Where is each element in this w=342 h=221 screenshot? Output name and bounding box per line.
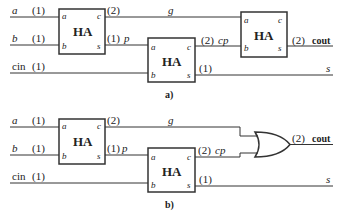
delay-b: (1): [32, 142, 45, 155]
label-cout: cout: [312, 133, 331, 144]
ha2-port-b: b: [151, 180, 156, 190]
ha1-label: HA: [73, 24, 93, 39]
delay-cout: (2): [292, 132, 305, 145]
ha3-port-a: a: [244, 15, 249, 25]
label-p: p: [121, 142, 128, 154]
delay-g: (2): [107, 4, 120, 17]
ha1-port-s: s: [97, 41, 101, 51]
delay-cp: (2): [201, 34, 214, 47]
ha3-port-s: s: [278, 43, 282, 53]
ha2-label: HA: [162, 164, 182, 179]
label-b: b: [12, 142, 18, 154]
label-a: a: [12, 4, 18, 16]
delay-g: (2): [107, 114, 120, 127]
ha2-port-s: s: [187, 180, 191, 190]
label-cp: cp: [218, 34, 229, 46]
ha3-label: HA: [254, 28, 274, 43]
delay-a: (1): [32, 4, 45, 17]
delay-a: (1): [32, 114, 45, 127]
delay-cout: (2): [292, 34, 305, 47]
delay-cin: (1): [32, 170, 45, 183]
ha1-port-a: a: [62, 11, 67, 21]
ha2-label: HA: [162, 54, 182, 69]
diagram-b-labels: a (1) b (1) cin (1) HA a b c s (2) g (1)…: [12, 114, 331, 211]
full-adder-diagrams: a (1) b (1) cin (1) HA a b c s (2) g (1)…: [0, 0, 342, 221]
diagram-b: [10, 119, 333, 192]
ha1-label: HA: [73, 134, 93, 149]
caption-a: a): [165, 89, 173, 101]
ha2-port-a: a: [151, 152, 156, 162]
diagram-a-labels: a (1) b (1) cin (1) HA a b c s (2) g (1)…: [12, 4, 331, 101]
label-g: g: [168, 114, 174, 126]
label-a: a: [12, 114, 18, 126]
ha1-port-s: s: [97, 151, 101, 161]
ha2-port-s: s: [187, 70, 191, 80]
ha3-port-c: c: [278, 15, 282, 25]
ha1-port-c: c: [97, 11, 101, 21]
label-g: g: [168, 4, 174, 16]
label-cin: cin: [12, 60, 26, 72]
label-cin: cin: [12, 170, 26, 182]
ha2-port-a: a: [151, 42, 156, 52]
label-s: s: [326, 173, 330, 185]
ha3-port-b: b: [244, 43, 249, 53]
ha1-port-b: b: [62, 151, 67, 161]
delay-s: (1): [199, 62, 212, 75]
delay-b: (1): [32, 32, 45, 45]
ha1-port-c: c: [97, 121, 101, 131]
ha2-port-c: c: [187, 42, 191, 52]
diagram-a: [10, 9, 333, 82]
label-cp: cp: [215, 144, 226, 156]
delay-cin: (1): [32, 60, 45, 73]
label-b: b: [12, 32, 18, 44]
delay-s: (1): [199, 173, 212, 186]
ha1-port-a: a: [62, 121, 67, 131]
ha1-port-b: b: [62, 41, 67, 51]
wire-g: [105, 127, 258, 136]
ha2-port-b: b: [151, 70, 156, 80]
delay-p: (1): [107, 142, 120, 155]
caption-b: b): [165, 199, 174, 211]
label-cout: cout: [312, 35, 331, 46]
or-gate: [255, 132, 290, 157]
ha2-port-c: c: [187, 152, 191, 162]
delay-cp: (2): [198, 144, 211, 157]
label-s: s: [326, 62, 330, 74]
delay-p: (1): [107, 32, 120, 45]
label-p: p: [123, 32, 130, 44]
